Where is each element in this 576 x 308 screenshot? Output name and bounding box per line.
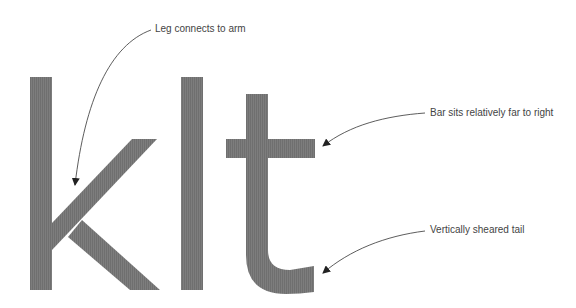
t-crossbar (226, 139, 315, 158)
arrow-bar-icon (323, 113, 425, 146)
t-stem-tail (246, 94, 314, 294)
glyph-l (181, 77, 203, 290)
k-leg (68, 220, 160, 290)
k-arm (52, 139, 157, 250)
arrow-tail-icon (323, 231, 425, 273)
glyph-k (30, 77, 160, 290)
glyph-t (226, 94, 315, 294)
annotation-bar: Bar sits relatively far to right (430, 107, 553, 119)
annotation-tail: Vertically sheared tail (430, 224, 525, 236)
annotation-leg: Leg connects to arm (155, 23, 246, 35)
type-specimen-diagram (0, 0, 576, 308)
k-stem (30, 77, 52, 290)
